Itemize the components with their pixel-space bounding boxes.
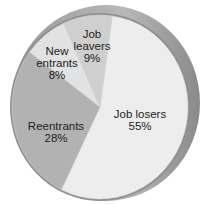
label-pct: 28% bbox=[26, 132, 86, 144]
label-pct: 55% bbox=[112, 120, 168, 132]
label-text: Job losers bbox=[112, 108, 168, 120]
label-text: Job bbox=[70, 28, 114, 40]
label-pct: 8% bbox=[34, 69, 80, 81]
label-pct: 9% bbox=[70, 52, 114, 64]
label-job-losers: Job losers 55% bbox=[112, 108, 168, 132]
label-job-leavers: Job leavers 9% bbox=[70, 28, 114, 64]
label-reentrants: Reentrants 28% bbox=[26, 120, 86, 144]
label-text: leavers bbox=[70, 40, 114, 52]
label-text: Reentrants bbox=[26, 120, 86, 132]
